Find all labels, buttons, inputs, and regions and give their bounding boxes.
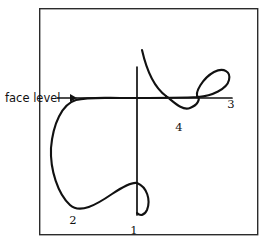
descending-entry-curve — [142, 50, 166, 96]
dip-and-loop-curve — [51, 70, 229, 209]
swing-path-diagram: face level 1 2 3 4 — [0, 0, 263, 243]
marker-label-2: 2 — [69, 213, 76, 227]
lower-hook-leaf — [137, 183, 149, 215]
marker-label-3: 3 — [227, 97, 234, 111]
face-level-label: face level — [5, 91, 61, 105]
marker-label-4: 4 — [175, 120, 182, 134]
marker-label-1: 1 — [130, 223, 137, 237]
